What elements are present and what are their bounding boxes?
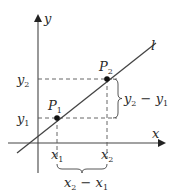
rise-label: y2 − y1 [123, 91, 168, 108]
p1-label: P1 [47, 98, 62, 115]
line-label: l [151, 38, 155, 53]
run-label: x2 − x1 [64, 175, 108, 192]
point-p2 [104, 76, 110, 82]
run-brace [57, 164, 107, 173]
x-axis-label: x [152, 126, 160, 141]
slope-diagram: y x l P1 P2 y2 y1 x1 x2 y2 − y1 x2 − x1 [0, 0, 171, 194]
x1-label: x1 [51, 147, 63, 164]
y2-label: y2 [16, 72, 29, 89]
point-p1 [54, 115, 60, 121]
y-axis-label: y [43, 11, 52, 26]
p2-label: P2 [98, 59, 113, 76]
y1-label: y1 [16, 111, 29, 128]
x2-label: x2 [101, 147, 113, 164]
rise-brace [113, 79, 122, 118]
